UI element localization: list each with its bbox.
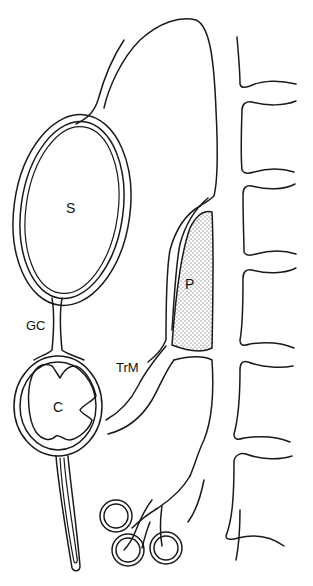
anatomical-diagram: P TrM S GC C xyxy=(0,0,313,586)
label-trm: TrM xyxy=(116,360,139,375)
c-tail xyxy=(56,456,80,571)
trm-duct: TrM xyxy=(106,346,166,420)
label-s: S xyxy=(66,200,75,216)
gc-duct: GC xyxy=(26,298,84,360)
vertebrae xyxy=(226,37,296,546)
large-sac xyxy=(76,19,217,206)
p-body: P xyxy=(172,212,213,351)
label-gc: GC xyxy=(26,318,46,333)
ring-cluster xyxy=(100,476,240,566)
label-p: P xyxy=(185,276,194,292)
s-chamber: S xyxy=(1,107,143,313)
c-chamber: C xyxy=(14,356,102,456)
label-c: C xyxy=(53,399,63,415)
